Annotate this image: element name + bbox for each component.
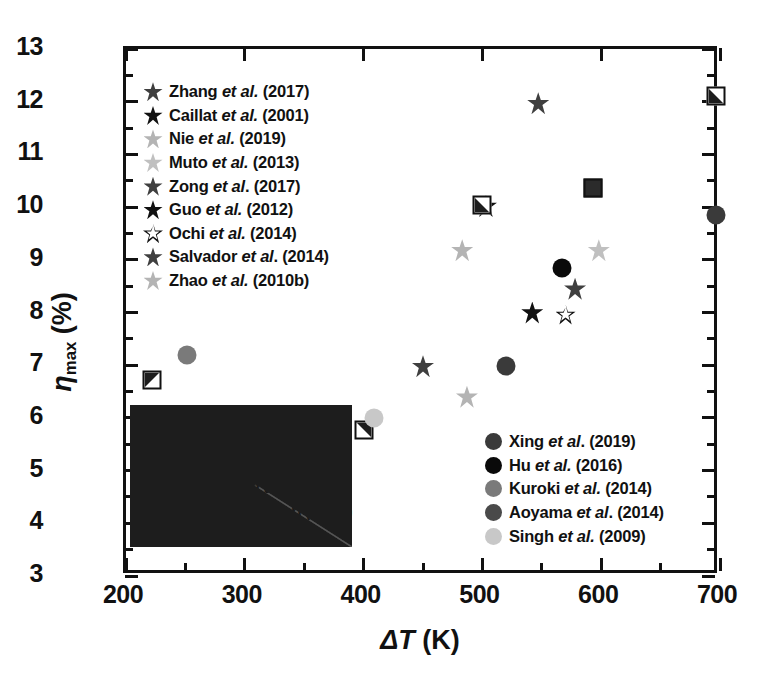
legend-item-label: Hu et al. (2016) [509, 456, 622, 475]
legend-item[interactable]: Koumoto and Mori (2013) [130, 499, 352, 523]
x-axis-tick-minor [540, 563, 543, 571]
legend-marker [130, 502, 156, 521]
y-axis-tick-label: 9 [0, 242, 43, 271]
legend-item[interactable]: Hu et al. (2016) [480, 454, 664, 478]
legend-etal: et al [576, 503, 608, 521]
legend-item-label: Aoyama et al. (2014) [509, 503, 664, 522]
y-axis-tick-minor [125, 337, 133, 340]
data-point-marker [583, 179, 602, 198]
data-point-marker [707, 206, 726, 225]
y-axis-tick-major [125, 258, 138, 261]
y-axis-tick-minor-right [707, 285, 715, 288]
legend-marker [140, 153, 166, 172]
x-axis-tick-major [600, 558, 603, 571]
y-axis-title-eta: η [47, 375, 77, 392]
y-axis-tick-major [125, 575, 138, 578]
legend-marker [480, 480, 506, 497]
square-marker-icon [134, 502, 153, 521]
legend-etal: et al [241, 247, 273, 265]
y-axis-tick-minor-right [707, 127, 715, 130]
x-axis-tick-label: 700 [677, 580, 757, 609]
legend-year: (2012) [242, 200, 293, 218]
square-fill-wedge [475, 197, 490, 212]
star-marker-icon [144, 129, 163, 148]
data-point-marker [177, 345, 196, 364]
legend-item[interactable]: Nie et al. (2019) [140, 127, 329, 151]
legend-etal: et al. [222, 106, 258, 124]
star-marker-icon [144, 177, 163, 196]
y-axis-tick-minor-right [707, 495, 715, 498]
y-axis-tick-major [125, 311, 138, 314]
legend-item[interactable]: Singh et al. (2009) [480, 524, 664, 548]
star-marker-icon [144, 200, 163, 219]
legend-item[interactable]: Zhang et al. (2017) [140, 80, 329, 104]
legend-item[interactable]: Salvador et al. (2014) [140, 245, 329, 269]
legend-year: . (2014) [608, 503, 663, 521]
y-axis-tick-minor-right [707, 232, 715, 235]
legend-marker [140, 247, 166, 266]
x-axis-title-delta: ΔT [380, 625, 415, 655]
legend-author: Guo [169, 200, 206, 218]
y-axis-tick-minor-right [707, 390, 715, 393]
data-point-marker [707, 86, 726, 105]
legend-year: (2014) [246, 224, 297, 242]
y-axis-tick-minor-right [707, 443, 715, 446]
legend-item[interactable]: Muto et al. (2013) [140, 151, 329, 175]
legend-item-label: Nie et al. (2019) [169, 129, 286, 148]
legend-marker [480, 528, 506, 545]
y-axis-tick-minor-right [707, 337, 715, 340]
x-axis-tick-label: 400 [321, 580, 401, 609]
y-axis-tick-major [125, 206, 138, 209]
star-marker-icon [144, 153, 163, 172]
x-axis-tick-major-top [243, 48, 246, 61]
legend-author: Zong [169, 177, 213, 195]
legend-item[interactable]: Caillat et al. (2001) [140, 104, 329, 128]
legend-item[interactable]: Aoyama et al. (2014) [480, 501, 664, 525]
legend-author: Hu [509, 456, 535, 474]
legend-year: (2019) [235, 129, 286, 147]
legend-item-label: Ochi et al. (2014) [169, 224, 297, 243]
legend-etal: et al. [222, 82, 258, 100]
legend-item[interactable]: Zhao et al. (2010b) [140, 269, 329, 293]
y-axis-tick-major-right [702, 416, 715, 419]
legend-item-label: Muto et al. (2013) [169, 153, 299, 172]
legend-marker [140, 177, 166, 196]
legend-item[interactable]: Kuroki et al. (2014) [480, 477, 664, 501]
x-axis-tick-minor [184, 563, 187, 571]
legend-year: (2009) [595, 527, 646, 545]
legend-etal: et al. [535, 456, 571, 474]
legend-etal: et al. [209, 224, 245, 242]
y-axis-tick-major [125, 153, 138, 156]
legend-item[interactable]: Ochi et al. (2014) [140, 222, 329, 246]
legend-author: Aoyama [509, 503, 576, 521]
legend-star-markers: Zhang et al. (2017)Caillat et al. (2001)… [140, 80, 329, 292]
circle-marker-icon [485, 433, 502, 450]
circle-marker-icon [485, 457, 502, 474]
legend-marker [140, 106, 166, 125]
y-axis-tick-major-right [702, 48, 715, 51]
y-axis-tick-major-right [702, 311, 715, 314]
y-axis-tick-major-right [702, 522, 715, 525]
x-axis-tick-major-top [481, 48, 484, 61]
legend-item[interactable]: Zong et al. (2017) [140, 174, 329, 198]
star-open-marker-icon [143, 223, 163, 243]
legend-item[interactable]: Guo et al. (2012) [140, 198, 329, 222]
y-axis-title-subscript: max [61, 341, 80, 375]
legend-year: (2001) [258, 106, 309, 124]
y-axis-tick-minor [125, 285, 133, 288]
legend-item-label: Singh et al. (2009) [509, 527, 646, 546]
legend-author: Kuroki [509, 479, 564, 497]
legend-year: (2017) [258, 82, 309, 100]
x-axis-tick-major [243, 558, 246, 571]
legend-item[interactable]: Xing et al. (2019) [480, 430, 664, 454]
scatter-chart-figure: ηmax (%) ΔT (K) 345678910111213200300400… [0, 0, 770, 683]
legend-marker [140, 271, 166, 290]
data-point-marker [552, 258, 571, 277]
y-axis-tick-label: 10 [0, 190, 43, 219]
circle-marker-icon [485, 528, 502, 545]
x-axis-title-unit: (K) [415, 625, 460, 655]
y-axis-tick-minor-right [707, 74, 715, 77]
y-axis-tick-minor [125, 548, 133, 551]
y-axis-tick-minor [125, 232, 133, 235]
legend-author: Xing [509, 432, 548, 450]
